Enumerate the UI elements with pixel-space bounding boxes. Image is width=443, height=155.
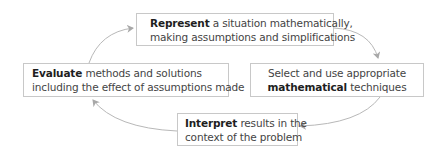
modelling-cycle-diagram: Represent a situation mathematically, ma…	[0, 0, 443, 155]
node-select-keyword: mathematical	[268, 81, 347, 93]
arrow-select-to-interpret	[300, 97, 380, 126]
node-represent-keyword: Represent	[150, 17, 210, 29]
node-evaluate: Evaluate methods and solutions including…	[23, 63, 229, 97]
node-interpret-text-2: context of the problem	[185, 131, 302, 143]
arrow-evaluate-to-represent	[89, 28, 133, 63]
node-interpret-keyword: Interpret	[185, 117, 237, 129]
node-evaluate-text-1: methods and solutions	[82, 67, 202, 79]
node-evaluate-keyword: Evaluate	[32, 67, 82, 79]
node-select-line1: Select and use appropriate	[251, 66, 423, 80]
node-select: Select and use appropriate mathematical …	[250, 63, 424, 97]
node-represent: Represent a situation mathematically, ma…	[136, 13, 334, 46]
node-evaluate-line1: Evaluate methods and solutions	[32, 66, 228, 80]
node-interpret-text-1: results in the	[237, 117, 307, 129]
node-represent-text-1: a situation mathematically,	[210, 17, 353, 29]
node-evaluate-text-2: including the effect of assumptions made	[32, 81, 244, 93]
node-select-text-2: techniques	[347, 81, 407, 93]
node-represent-line2: making assumptions and simplifications	[150, 30, 333, 44]
arrow-interpret-to-evaluate	[93, 100, 177, 131]
node-represent-line1: Represent a situation mathematically,	[150, 16, 333, 30]
node-select-line2: mathematical techniques	[251, 80, 423, 94]
node-interpret: Interpret results in the context of the …	[177, 113, 298, 146]
node-evaluate-line2: including the effect of assumptions made	[32, 80, 228, 94]
node-select-text-1: Select and use appropriate	[268, 67, 406, 79]
node-represent-text-2: making assumptions and simplifications	[150, 31, 355, 43]
node-interpret-line2: context of the problem	[185, 130, 297, 144]
node-interpret-line1: Interpret results in the	[185, 116, 297, 130]
